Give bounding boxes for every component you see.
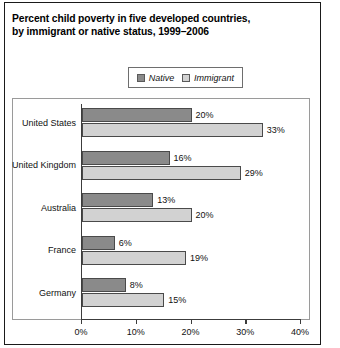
bar-immigrant (82, 166, 241, 180)
x-tick-label: 10% (127, 327, 145, 337)
bar-immigrant (82, 251, 186, 265)
legend-label-immigrant: Immigrant (194, 73, 234, 83)
bar-immigrant (82, 293, 164, 307)
bar-immigrant (82, 123, 263, 137)
bar-value-native: 13% (157, 195, 175, 205)
chart-title-line-2: by immigrant or native status, 1999–2006 (12, 25, 312, 38)
legend-item-native: Native (137, 73, 175, 83)
poverty-bar-chart-figure: Percent child poverty in five developed … (0, 0, 340, 348)
chart-legend: Native Immigrant (128, 67, 243, 88)
bar-value-immigrant: 15% (168, 295, 186, 305)
bar-value-native: 8% (130, 280, 143, 290)
bar-native (82, 278, 126, 292)
x-tick-label: 30% (236, 327, 254, 337)
category-label: United Kingdom (12, 160, 76, 170)
x-tick-mark (300, 319, 301, 324)
bar-value-native: 6% (119, 238, 132, 248)
x-tick-mark (191, 319, 192, 324)
legend-item-immigrant: Immigrant (182, 73, 234, 83)
category-label: United States (22, 118, 76, 128)
bar-value-immigrant: 19% (190, 253, 208, 263)
bar-immigrant (82, 208, 192, 222)
category-label: Germany (39, 288, 76, 298)
chart-title-line-1: Percent child poverty in five developed … (12, 12, 312, 25)
bar-native (82, 108, 192, 122)
category-label: Australia (41, 203, 76, 213)
x-tick-label: 0% (74, 327, 87, 337)
x-tick-mark (245, 319, 246, 324)
bar-value-immigrant: 33% (267, 125, 285, 135)
legend-swatch-immigrant-icon (182, 74, 190, 82)
x-tick-mark (136, 319, 137, 324)
x-tick-mark (81, 319, 82, 324)
bar-value-native: 16% (174, 153, 192, 163)
bar-native (82, 193, 153, 207)
chart-title: Percent child poverty in five developed … (12, 12, 312, 39)
bar-native (82, 236, 115, 250)
x-tick-label: 20% (181, 327, 199, 337)
bar-value-native: 20% (196, 110, 214, 120)
bar-value-immigrant: 20% (196, 210, 214, 220)
legend-swatch-native-icon (137, 74, 145, 82)
bar-native (82, 151, 170, 165)
legend-label-native: Native (149, 73, 175, 83)
bar-value-immigrant: 29% (245, 168, 263, 178)
category-label: France (48, 245, 76, 255)
x-tick-label: 40% (291, 327, 309, 337)
